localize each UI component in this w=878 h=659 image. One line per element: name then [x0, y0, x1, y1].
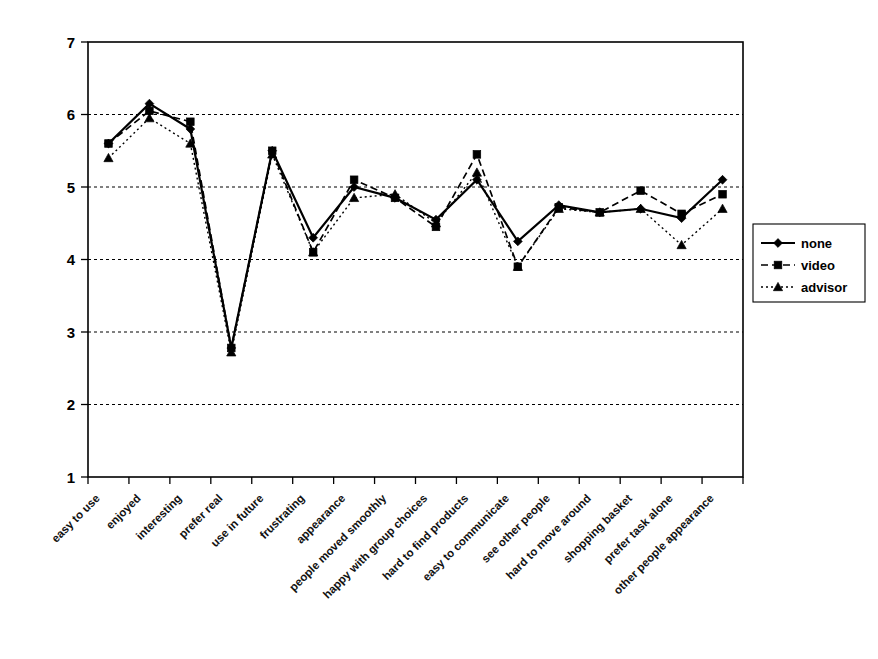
legend-marker-video: [774, 261, 782, 269]
x-category-label: shopping basket: [561, 492, 634, 565]
data-point-video: [350, 176, 358, 184]
series-markers: [104, 99, 727, 356]
series-line-advisor: [108, 118, 722, 352]
y-tick-label: 7: [67, 34, 75, 51]
series-lines: [108, 104, 722, 353]
y-tick-label: 6: [67, 106, 75, 123]
series-line-video: [108, 111, 722, 348]
y-tick-label: 4: [67, 251, 76, 268]
y-axis-tick-labels: 1234567: [67, 34, 76, 486]
legend: nonevideoadvisor: [753, 224, 865, 302]
y-axis-ticks: [81, 42, 88, 477]
x-category-label: prefer task alone: [601, 492, 675, 566]
data-point-video: [678, 210, 686, 218]
y-tick-label: 2: [67, 396, 75, 413]
x-axis-ticks: [88, 477, 743, 484]
data-point-video: [105, 140, 113, 148]
data-point-advisor: [472, 168, 481, 176]
x-category-label: enjoyed: [104, 492, 143, 531]
data-point-video: [187, 118, 195, 126]
data-point-video: [473, 151, 481, 159]
data-point-video: [637, 187, 645, 195]
data-point-video: [719, 190, 727, 198]
legend-label-advisor: advisor: [801, 280, 847, 295]
y-tick-label: 1: [67, 469, 75, 486]
x-category-label: easy to use: [49, 492, 102, 545]
y-tick-label: 5: [67, 179, 75, 196]
legend-label-video: video: [801, 258, 835, 273]
series-line-none: [108, 104, 722, 348]
x-category-label: see other people: [479, 492, 552, 565]
data-point-advisor: [349, 193, 358, 201]
line-chart: 1234567 easy to useenjoyedinterestingpre…: [0, 0, 878, 659]
x-axis-category-labels: easy to useenjoyedinterestingprefer real…: [49, 492, 716, 601]
legend-label-none: none: [801, 236, 832, 251]
gridlines: [88, 115, 743, 405]
data-point-advisor: [104, 153, 113, 161]
y-tick-label: 3: [67, 324, 75, 341]
data-point-advisor: [718, 204, 727, 212]
chart-canvas: 1234567 easy to useenjoyedinterestingpre…: [0, 0, 878, 659]
